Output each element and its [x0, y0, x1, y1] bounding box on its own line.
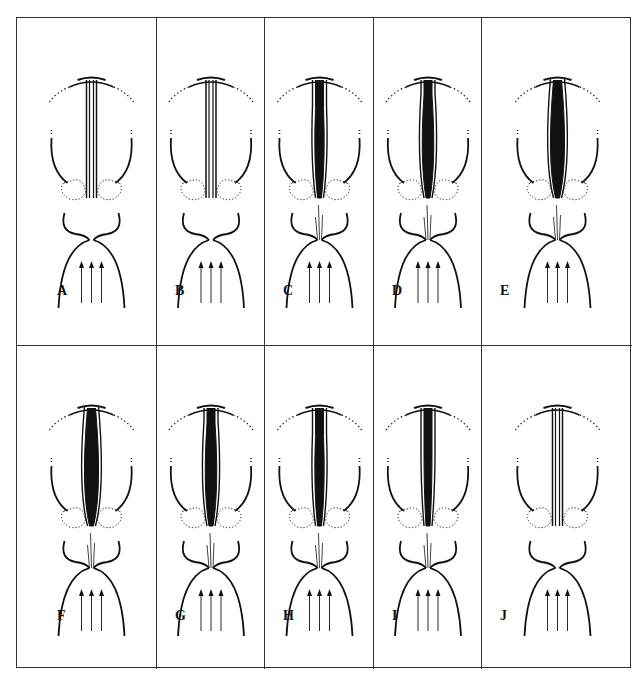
airflow-arrows-icon: [416, 261, 441, 303]
airflow-arrows-icon: [79, 589, 104, 631]
larynx-top-view: [169, 406, 253, 528]
airflow-arrows-icon: [307, 261, 332, 303]
panel-label: E: [500, 283, 509, 299]
panel-label: C: [283, 283, 293, 299]
larynx-top-view: [386, 406, 470, 528]
airflow-arrows-icon: [79, 261, 104, 303]
panel-label: G: [175, 608, 186, 624]
larynx-top-view: [278, 78, 362, 200]
airflow-arrows-icon: [199, 261, 224, 303]
panel-d: D: [373, 18, 481, 345]
larynx-top-view: [50, 78, 134, 200]
airflow-arrows-icon: [545, 589, 570, 631]
figure-grid: ABCDEFGHIJ: [16, 17, 631, 668]
panel-label: I: [392, 608, 397, 624]
airflow-arrows-icon: [545, 261, 570, 303]
larynx-top-view: [516, 406, 600, 528]
panel-b: B: [156, 18, 264, 345]
panel-label: B: [175, 283, 184, 299]
larynx-top-view: [386, 78, 470, 200]
airflow-arrows-icon: [307, 589, 332, 631]
airflow-arrows-icon: [416, 589, 441, 631]
panel-e: E: [481, 18, 632, 345]
larynx-top-view: [50, 406, 134, 528]
panel-a: A: [17, 18, 156, 345]
panel-label: A: [57, 283, 67, 299]
airflow-arrows-icon: [199, 589, 224, 631]
panel-i: I: [373, 345, 481, 669]
panel-label: D: [392, 283, 402, 299]
panel-h: H: [264, 345, 373, 669]
panel-g: G: [156, 345, 264, 669]
larynx-top-view: [169, 78, 253, 200]
panel-c: C: [264, 18, 373, 345]
panel-f: F: [17, 345, 156, 669]
panel-j: J: [481, 345, 632, 669]
panel-label: H: [283, 608, 294, 624]
panel-label: F: [57, 608, 66, 624]
panel-label: J: [500, 608, 507, 624]
larynx-top-view: [278, 406, 362, 528]
larynx-top-view: [516, 78, 600, 200]
